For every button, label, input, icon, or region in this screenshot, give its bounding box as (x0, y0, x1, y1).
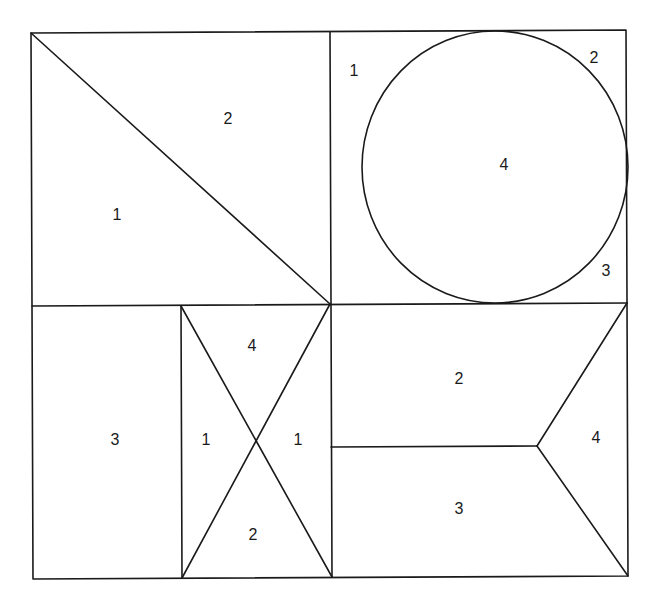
region-label: 2 (455, 370, 464, 387)
region-label: 2 (224, 110, 233, 127)
chevron-upper-arm (537, 303, 627, 446)
region-label: 1 (350, 62, 359, 79)
region-label: 3 (111, 431, 120, 448)
region-label: 1 (202, 431, 211, 448)
region-label: 4 (248, 337, 257, 354)
chevron-lower-arm (537, 446, 628, 576)
bottom-right-horizontal (331, 446, 537, 447)
region-label: 2 (590, 49, 599, 66)
region-label: 1 (113, 206, 122, 223)
region-diagram: 1 2 1 2 4 3 3 4 1 1 2 2 4 3 (0, 0, 662, 606)
x-box-left-edge (181, 306, 182, 578)
inscribed-circle (362, 31, 628, 303)
region-label: 4 (592, 429, 601, 446)
region-label: 4 (500, 156, 509, 173)
region-label: 2 (249, 526, 258, 543)
region-label: 3 (602, 262, 611, 279)
region-label: 3 (455, 500, 464, 517)
region-label: 1 (294, 431, 303, 448)
top-left-diagonal (31, 33, 330, 304)
